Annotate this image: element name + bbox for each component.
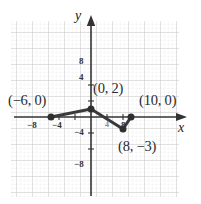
- data-point-marker-2: [88, 106, 95, 113]
- y-tick-label-neg8: −8: [74, 160, 84, 169]
- y-axis-label: y: [75, 9, 81, 23]
- point-label-10-0: (10, 0): [139, 93, 176, 108]
- point-label-neg6-0: (−6, 0): [8, 93, 46, 108]
- y-tick-label-pos8: 8: [79, 57, 84, 66]
- x-axis-label: x: [178, 121, 184, 135]
- y-tick-label-pos4: 4: [79, 73, 84, 82]
- x-tick-label-pos8: 8: [121, 121, 126, 130]
- grid-major: [11, 21, 179, 197]
- point-label-8-neg3: (8, −3): [118, 139, 156, 154]
- coordinate-graph: y x (−6, 0) (0, 2) (10, 0) (8, −3) −8 −4…: [0, 0, 201, 204]
- x-tick-label-neg8: −8: [27, 121, 37, 130]
- point-label-0-2: (0, 2): [93, 81, 123, 96]
- x-tick-label-neg4: −4: [52, 121, 62, 130]
- y-tick-label-neg4: −4: [74, 128, 84, 137]
- x-tick-label-pos4: 4: [105, 121, 109, 129]
- data-point-marker-4: [128, 114, 135, 121]
